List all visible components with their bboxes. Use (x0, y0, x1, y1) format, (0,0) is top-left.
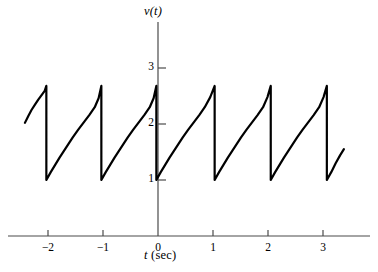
waveform-curve (25, 86, 344, 180)
x-axis-tick-label: −1 (92, 241, 114, 253)
y-axis-label: v(t) (144, 4, 162, 19)
y-axis-tick-label: 1 (136, 172, 154, 184)
x-axis-tick-label: 2 (257, 241, 279, 253)
chart-figure: v(t) t (sec) −2−10123 123 (0, 0, 378, 272)
y-axis-tick-label: 3 (136, 60, 154, 72)
x-axis-ticks (48, 230, 323, 236)
x-axis-tick-label: 3 (312, 241, 334, 253)
x-axis-tick-label: 0 (147, 241, 169, 253)
chart-plot-area (0, 0, 378, 272)
y-axis-tick-label: 2 (136, 116, 154, 128)
y-axis-ticks (158, 68, 166, 180)
x-axis-tick-label: 1 (202, 241, 224, 253)
x-axis-tick-label: −2 (37, 241, 59, 253)
